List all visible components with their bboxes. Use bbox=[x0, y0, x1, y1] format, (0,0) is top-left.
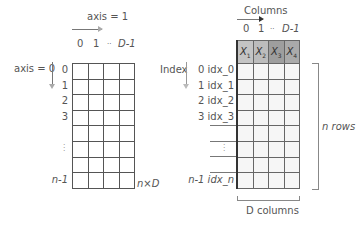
index-label-last: n-1 idx_n bbox=[186, 174, 234, 186]
right-col-label-0: 0 bbox=[243, 23, 249, 35]
column-header-x4: X4 bbox=[284, 41, 300, 64]
right-col-label-1: 1 bbox=[258, 23, 264, 35]
index-label-1: 1 idx_1 bbox=[196, 80, 234, 92]
columns-title: Columns bbox=[244, 5, 288, 17]
right-col-label-ellipsis: ·· bbox=[270, 23, 274, 35]
rows-bracket bbox=[312, 63, 319, 190]
left-row-label-2: 2 bbox=[54, 95, 68, 107]
columns-bracket-label: D columns bbox=[246, 205, 299, 217]
index-row-divider bbox=[210, 172, 237, 173]
index-row-divider bbox=[210, 156, 237, 157]
rows-bracket-label: n rows bbox=[322, 121, 355, 133]
axis0-arrow-line bbox=[52, 62, 53, 84]
axis0-label: axis = 0 bbox=[14, 63, 55, 75]
left-row-label-1: 1 bbox=[54, 80, 68, 92]
column-header-row: X1 X2 X3 X4 bbox=[237, 40, 300, 64]
left-row-label-3: 3 bbox=[54, 111, 68, 123]
left-row-label-last: n-1 bbox=[48, 174, 68, 186]
index-title: Index bbox=[160, 64, 188, 76]
column-header-x3: X3 bbox=[269, 41, 285, 64]
left-col-label-1: 1 bbox=[93, 38, 99, 50]
index-arrow-line bbox=[186, 62, 187, 84]
shape-label: n×D bbox=[137, 178, 159, 190]
index-label-2: 2 idx_2 bbox=[196, 95, 234, 107]
left-col-label-0: 0 bbox=[77, 38, 83, 50]
left-row-label-ellipsis: ⋮ bbox=[54, 142, 68, 154]
column-header-x1: X1 bbox=[238, 41, 254, 64]
left-array-grid bbox=[72, 63, 135, 189]
axis1-label: axis = 1 bbox=[87, 11, 128, 23]
arrow-down-icon bbox=[183, 84, 189, 89]
columns-bracket bbox=[237, 196, 300, 201]
index-row-divider bbox=[210, 125, 237, 126]
index-separator bbox=[236, 40, 238, 189]
dataframe-grid bbox=[237, 63, 300, 189]
left-col-label-last: D-1 bbox=[118, 38, 136, 50]
arrow-right-icon bbox=[259, 16, 264, 22]
left-col-label-ellipsis: ·· bbox=[107, 38, 111, 50]
index-label-ellipsis: ⋮ bbox=[196, 142, 228, 154]
column-header-x2: X2 bbox=[253, 41, 269, 64]
arrow-right-icon bbox=[98, 26, 103, 32]
index-label-0: 0 idx_0 bbox=[196, 64, 234, 76]
right-col-label-last: D-1 bbox=[282, 23, 300, 35]
left-row-label-0: 0 bbox=[54, 64, 68, 76]
index-label-3: 3 idx_3 bbox=[196, 111, 234, 123]
index-row-divider bbox=[210, 141, 237, 142]
